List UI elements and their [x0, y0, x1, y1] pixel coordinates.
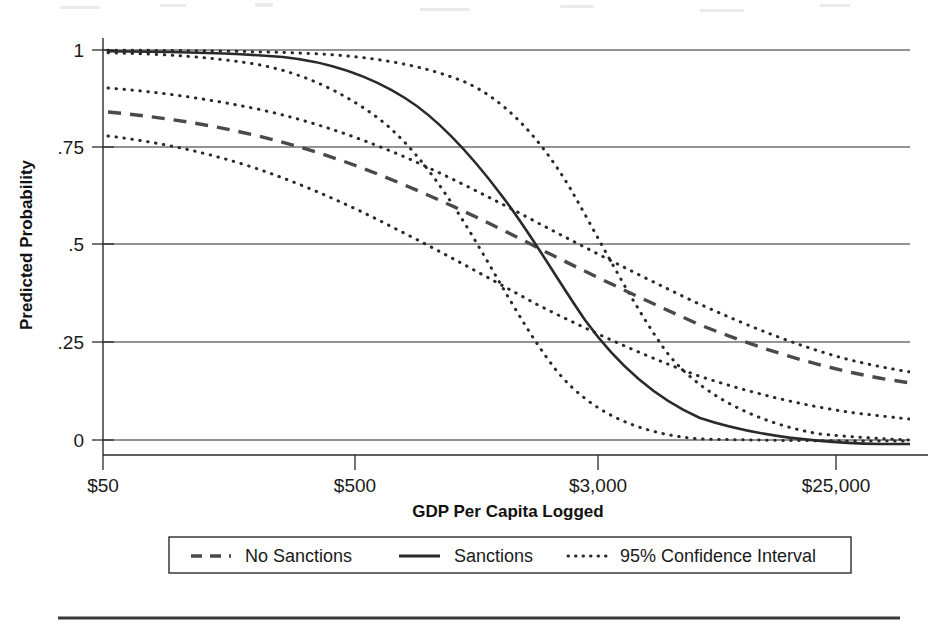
x-axis-title: GDP Per Capita Logged: [412, 502, 603, 521]
series-sanctions-lower-ci: [108, 53, 910, 441]
legend-label-sanctions: Sanctions: [454, 546, 533, 566]
x-tick-label-25000: $25,000: [802, 475, 871, 496]
x-tick-label-500: $500: [334, 475, 376, 496]
y-tick-label-1: 1: [73, 40, 84, 61]
y-tick-label-0: 0: [73, 430, 84, 451]
chart-canvas: 1 .75 .5 .25 0 Predicted Probability $50…: [0, 0, 942, 632]
y-tick-label-025: .25: [58, 332, 84, 353]
x-tick-label-50: $50: [87, 475, 119, 496]
series-sanctions-upper-ci: [108, 50, 910, 440]
axis-lines: [103, 38, 928, 455]
y-tick-label-075: .75: [58, 137, 84, 158]
x-tick-label-3000: $3,000: [569, 475, 627, 496]
chart-figure: 1 .75 .5 .25 0 Predicted Probability $50…: [0, 0, 942, 632]
series-sanctions: [108, 51, 910, 444]
series-no-sanctions-lower-ci: [108, 136, 910, 419]
y-tick-label-05: .5: [68, 234, 84, 255]
y-axis-title: Predicted Probability: [17, 159, 36, 330]
data-series-group: [108, 50, 910, 444]
legend-label-no-sanctions: No Sanctions: [245, 546, 352, 566]
chart-legend: No Sanctions Sanctions 95% Confidence In…: [169, 537, 851, 573]
y-axis-tick-labels: 1 .75 .5 .25 0: [58, 40, 84, 451]
x-axis-ticks: [103, 455, 836, 470]
scan-artifacts: [60, 3, 850, 12]
x-axis-tick-labels: $50 $500 $3,000 $25,000: [87, 475, 870, 496]
legend-label-confidence-interval: 95% Confidence Interval: [620, 546, 816, 566]
